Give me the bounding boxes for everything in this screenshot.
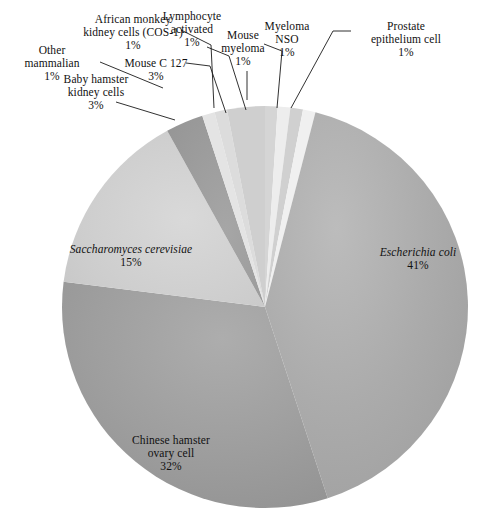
label-myeloma-nso-line1: Myeloma — [256, 20, 318, 33]
label-baby-hamster-line2: kidney cells — [40, 86, 152, 99]
label-prostate-epithelium-cell: Prostate epithelium cell 1% — [352, 20, 460, 59]
label-myeloma-nso-percent: 1% — [256, 46, 318, 59]
label-ecoli-name: Escherichia coli — [366, 246, 470, 259]
label-cho-percent: 32% — [104, 460, 238, 473]
label-cho-line2: ovary cell — [104, 447, 238, 460]
label-mouse-c127-line1: Mouse C 127 — [110, 57, 202, 70]
label-lymphocyte-line1: Lymphocyte — [155, 10, 229, 23]
label-cho-line1: Chinese hamster — [104, 434, 238, 447]
label-saccharomyces-name: Saccharomyces cerevisiae — [53, 243, 209, 256]
label-saccharomyces-percent: 15% — [53, 256, 209, 269]
label-mouse-c127: Mouse C 127 3% — [110, 57, 202, 83]
label-myeloma-nso-line2: NSO — [256, 33, 318, 46]
label-myeloma-nso: Myeloma NSO 1% — [256, 20, 318, 59]
label-prostate-percent: 1% — [352, 46, 460, 59]
label-saccharomyces-cerevisiae: Saccharomyces cerevisiae 15% — [53, 243, 209, 269]
label-prostate-line2: epithelium cell — [352, 33, 460, 46]
label-other-mammalian-line2: mammalian — [6, 57, 98, 70]
label-prostate-line1: Prostate — [352, 20, 460, 33]
label-ecoli-percent: 41% — [366, 259, 470, 272]
label-baby-hamster-percent: 3% — [40, 99, 152, 112]
pie-chart-figure: Other mammalian 1% Baby hamster kidney c… — [0, 0, 488, 532]
label-escherichia-coli: Escherichia coli 41% — [366, 246, 470, 272]
label-mouse-c127-percent: 3% — [110, 70, 202, 83]
label-chinese-hamster-ovary-cell: Chinese hamster ovary cell 32% — [104, 434, 238, 473]
